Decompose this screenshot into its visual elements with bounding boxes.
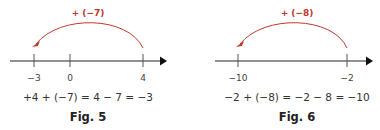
tick-label: −10 (229, 73, 248, 83)
equation: −2 + (−8) = −2 − 8 = −10 (224, 91, 369, 103)
jump-arc (36, 23, 143, 48)
arc-arrowhead-icon (32, 41, 40, 47)
figure-caption: Fig. 6 (279, 110, 315, 124)
tick-label: −2 (340, 73, 353, 83)
axis-arrowhead-icon (366, 57, 373, 66)
tick-label: −3 (27, 73, 40, 83)
figure-6: + (−8) −10 −2 −2 + (−8) = −2 − 8 = −10 F… (215, 8, 373, 124)
arc-arrowhead-icon (236, 41, 244, 47)
jump-label: + (−7) (72, 8, 105, 18)
jump-arc (240, 23, 347, 48)
tick-label: 0 (67, 73, 73, 83)
axis-arrowhead-icon (160, 57, 167, 66)
figure-5: + (−7) −3 0 4 +4 + (−7) = 4 − 7 = −3 Fig… (10, 8, 167, 124)
number-line-figures: + (−7) −3 0 4 +4 + (−7) = 4 − 7 = −3 Fig… (0, 0, 380, 130)
tick-label: 4 (140, 73, 146, 83)
jump-label: + (−8) (281, 8, 314, 18)
figure-caption: Fig. 5 (70, 110, 106, 124)
equation: +4 + (−7) = 4 − 7 = −3 (23, 91, 153, 103)
